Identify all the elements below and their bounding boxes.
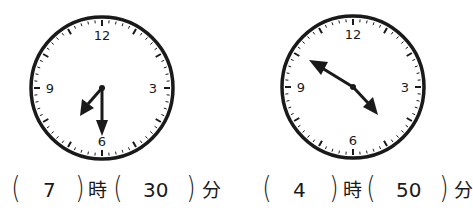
minute-answer[interactable]: 50 — [396, 172, 421, 208]
minute-answer[interactable]: 30 — [143, 172, 168, 208]
hour-hand — [353, 87, 378, 115]
answer-row-1: ( 7 ) 時 ( 30 ) 分 — [0, 172, 236, 208]
numeral-3: 3 — [401, 80, 409, 95]
open-paren: ( — [366, 170, 375, 206]
clock-2: 12 3 6 9 — [236, 0, 473, 165]
hour-answer[interactable]: 4 — [293, 172, 306, 208]
clock-face-1: 12 3 6 9 — [0, 0, 236, 165]
hour-unit: 時 — [343, 172, 362, 208]
numeral-12: 12 — [345, 27, 362, 42]
clock-face-2: 12 3 6 9 — [236, 0, 473, 165]
minute-unit: 分 — [202, 172, 221, 208]
numeral-6: 6 — [349, 133, 357, 148]
center-pin — [350, 84, 356, 90]
minute-unit: 分 — [454, 172, 473, 208]
close-paren: ) — [75, 170, 84, 206]
hour-unit: 時 — [88, 172, 107, 208]
numeral-12: 12 — [94, 28, 111, 43]
clock-1: 12 3 6 9 — [0, 0, 236, 165]
close-paren: ) — [186, 170, 195, 206]
minute-hand — [309, 60, 353, 87]
hour-hand — [80, 88, 102, 116]
minute-hand — [96, 88, 108, 136]
hour-answer[interactable]: 7 — [43, 172, 56, 208]
answer-row-2: ( 4 ) 時 ( 50 ) 分 — [236, 172, 473, 208]
close-paren: ) — [439, 170, 448, 206]
open-paren: ( — [113, 170, 122, 206]
open-paren: ( — [262, 170, 271, 206]
center-pin — [99, 85, 105, 91]
numeral-9: 9 — [46, 81, 54, 96]
numeral-6: 6 — [98, 134, 106, 149]
numeral-9: 9 — [297, 80, 305, 95]
numeral-3: 3 — [149, 81, 157, 96]
open-paren: ( — [11, 170, 20, 206]
close-paren: ) — [329, 170, 338, 206]
